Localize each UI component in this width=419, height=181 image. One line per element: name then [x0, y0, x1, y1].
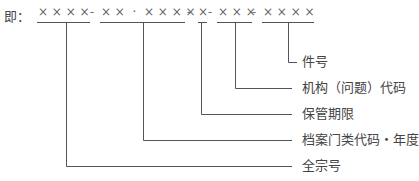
connector-category-year	[144, 22, 293, 141]
connector-organization-code	[236, 22, 293, 89]
connector-fonds-number	[67, 22, 293, 167]
label-item-number: 件号	[302, 54, 328, 70]
label-retention-period: 保管期限	[302, 106, 354, 122]
label-fonds-number: 全宗号	[302, 158, 341, 174]
label-category-year: 档案门类代码・年度	[302, 132, 419, 148]
label-organization-code: 机构（问题）代码	[302, 80, 406, 96]
connector-item-number	[289, 22, 298, 63]
connector-retention-period	[202, 22, 293, 115]
